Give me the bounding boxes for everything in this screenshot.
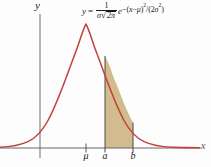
y-axis-label: y [35, 0, 40, 11]
formula-radicand: 2π [106, 11, 116, 20]
formula-fraction: 1 σ√2π [96, 2, 117, 20]
formula-denominator: σ√2π [96, 11, 117, 20]
exp-square: 2 [143, 2, 146, 8]
exp-slash: /(2 [146, 5, 155, 14]
tick-label-b: b [127, 150, 139, 161]
formula-lhs: y [82, 7, 86, 16]
exp-minus-open: −( [122, 5, 129, 14]
pdf-formula: y = 1 σ√2π e −(x−μ)2/(2σ2) [82, 2, 164, 20]
exp-end: ) [161, 5, 164, 14]
formula-numerator: 1 [103, 2, 111, 10]
normal-distribution-chart [0, 0, 211, 167]
tick-label-mu: μ [80, 150, 92, 161]
x-axis-label: x [201, 140, 205, 151]
shaded-area-a-to-b [105, 56, 133, 148]
tick-label-a: a [99, 150, 111, 161]
exp-sigma-square: 2 [158, 2, 161, 8]
sqrt-group: √2π [101, 11, 116, 20]
formula-exponent: −(x−μ)2/(2σ2) [122, 4, 164, 14]
formula-equals: = [88, 7, 93, 16]
normal-curve [0, 24, 200, 148]
